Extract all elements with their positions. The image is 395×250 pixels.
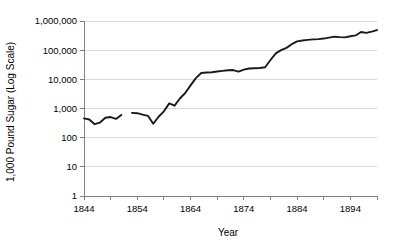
x-tick-label: 1894 <box>340 203 361 214</box>
x-tick-label: 1844 <box>73 203 94 214</box>
sugar-production-log-line-chart: 1,000,000100,00010,0001,000100101 184418… <box>0 0 395 250</box>
x-tick-label: 1874 <box>233 203 254 214</box>
y-tick-label: 100,000 <box>43 45 77 56</box>
x-axis-title: Year <box>218 227 239 238</box>
y-tick-label: 1 <box>72 190 77 201</box>
y-tick-label: 1,000 <box>53 103 77 114</box>
chart-container: 1,000,000100,00010,0001,000100101 184418… <box>0 0 395 250</box>
x-tick-label: 1864 <box>180 203 201 214</box>
x-tick-label: 1884 <box>287 203 308 214</box>
y-tick-label: 10 <box>66 161 77 172</box>
x-tick-label: 1854 <box>127 203 148 214</box>
y-tick-label: 10,000 <box>48 74 77 85</box>
y-tick-label: 1,000,000 <box>35 15 77 26</box>
y-tick-label: 100 <box>61 132 77 143</box>
y-axis-title: 1,000 Pound Sugar (Log Scale) <box>5 42 16 182</box>
